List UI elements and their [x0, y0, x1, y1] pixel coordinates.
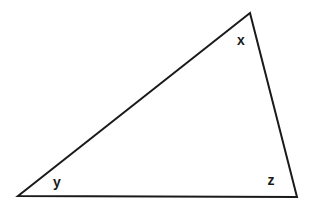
angle-label-x: x — [237, 33, 245, 47]
diagram-background — [0, 0, 313, 210]
angle-label-y: y — [53, 175, 61, 189]
angle-label-z: z — [268, 173, 275, 187]
triangle-svg-canvas — [0, 0, 313, 210]
triangle-diagram: x y z — [0, 0, 313, 210]
